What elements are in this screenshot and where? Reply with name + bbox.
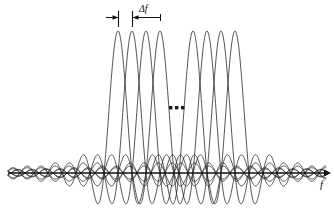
ellipsis-dot-1 [169, 106, 172, 109]
dim-arrow-right-start [133, 15, 139, 20]
dim-arrow-left [113, 15, 119, 20]
frequency-axis-label: f [320, 178, 325, 190]
ofdm-spectrum-figure: f Δf [0, 0, 334, 216]
subcarrier-spacing-label: Δf [138, 3, 149, 14]
ellipsis-dot-2 [175, 106, 178, 109]
spectrum-plot: f Δf [0, 0, 334, 216]
subcarrier-spacing-dimension [106, 11, 161, 27]
sinc-curve-group [8, 31, 326, 204]
ellipsis-icon [169, 106, 184, 109]
ellipsis-dot-3 [181, 106, 184, 109]
axis-arrowhead [324, 169, 331, 176]
